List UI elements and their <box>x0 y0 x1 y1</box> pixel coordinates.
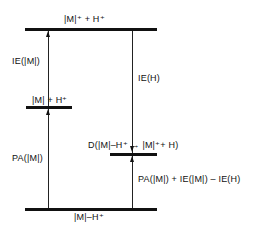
combined-arrow-icon <box>130 156 134 162</box>
combined-label: PA(|M|) + IE(|M|) – IE(H) <box>138 174 240 184</box>
ie-h-label: IE(H) <box>138 73 160 83</box>
pa-m-line <box>48 109 49 208</box>
level-mid-right <box>110 153 157 156</box>
pa-m-label: PA(|M|) <box>12 153 43 163</box>
ie-m-line <box>48 31 49 106</box>
ie-m-arrow-icon <box>46 31 50 37</box>
level-mid-left-label: |M| + H⁺ <box>32 95 68 105</box>
level-bottom-label: |M|–H⁺ <box>74 212 104 222</box>
combined-line <box>132 156 133 208</box>
ie-m-label: IE(|M|) <box>12 56 40 66</box>
level-bottom <box>25 208 157 211</box>
pa-m-arrow-icon <box>46 109 50 115</box>
ie-h-arrow-icon <box>130 146 134 152</box>
level-top-label: |M|⁺ + H⁺ <box>64 14 105 24</box>
ie-h-line <box>132 31 133 153</box>
